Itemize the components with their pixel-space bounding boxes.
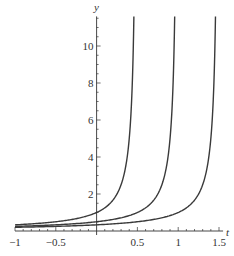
series-curve-asymptote-0.5 — [15, 16, 134, 224]
x-axis-label: t — [226, 226, 230, 238]
x-tick-label: 1.5 — [212, 236, 226, 248]
chart: −1−0.50.511.5246810 y t — [0, 0, 234, 256]
x-tick-label: 1 — [175, 236, 181, 248]
y-axis-label: y — [93, 1, 99, 13]
y-tick-label: 8 — [88, 77, 94, 89]
y-tick-label: 10 — [83, 40, 95, 52]
y-tick-label: 6 — [88, 114, 94, 126]
y-tick-label: 2 — [88, 188, 94, 200]
curves — [15, 16, 215, 227]
series-curve-asymptote-1 — [15, 16, 175, 226]
x-tick-label: −0.5 — [46, 236, 66, 248]
x-tick-label: −1 — [9, 236, 21, 248]
y-tick-label: 4 — [88, 151, 94, 163]
axes: −1−0.50.511.5246810 — [9, 16, 226, 248]
x-tick-label: 0.5 — [131, 236, 145, 248]
